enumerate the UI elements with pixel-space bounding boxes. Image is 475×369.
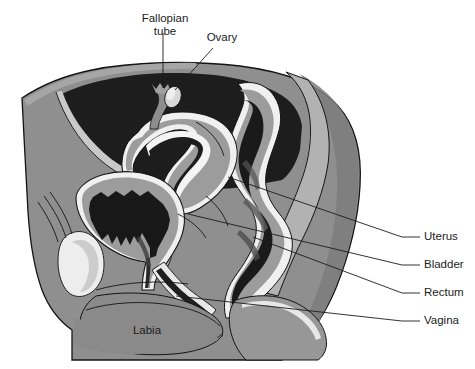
label-labia: Labia — [133, 324, 162, 336]
label-uterus: Uterus — [424, 230, 458, 242]
label-bladder: Bladder — [424, 258, 464, 270]
label-ovary: Ovary — [207, 31, 238, 43]
label-rectum: Rectum — [424, 286, 464, 298]
label-fallopian-tube-line1: Fallopian — [142, 12, 189, 24]
label-vagina: Vagina — [424, 314, 460, 326]
pelvic-anatomy-diagram: Fallopian tube Ovary Labia Uterus Bladde… — [0, 0, 475, 369]
anatomy-figure: Fallopian tube Ovary Labia Uterus Bladde… — [0, 0, 475, 369]
label-fallopian-tube-line2: tube — [154, 25, 176, 37]
